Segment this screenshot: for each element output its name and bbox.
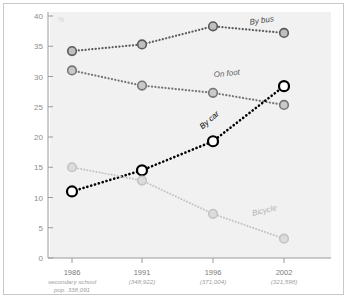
x-axis-tick-label: 1996 (205, 268, 222, 277)
y-axis-tick-label: 20 (34, 133, 43, 142)
data-point-by-car (137, 165, 147, 175)
x-axis-sublabel: (371,004) (200, 278, 227, 285)
percent-unit-label: % (58, 16, 64, 23)
y-axis-tick-label: 40 (34, 12, 43, 21)
data-point-by-bus (68, 47, 77, 56)
plot-area: 0510152025303540%1986secondary schoolpop… (0, 0, 347, 298)
data-point-on-foot (68, 66, 77, 75)
x-axis-sublabel: (321,598) (271, 278, 298, 285)
data-point-by-bus (280, 29, 289, 38)
y-axis-tick-label: 25 (34, 103, 43, 112)
y-axis-tick-label: 5 (39, 224, 44, 233)
data-point-on-foot (138, 81, 147, 90)
y-axis-tick-label: 35 (34, 42, 43, 51)
data-point-bicycle (138, 176, 147, 185)
data-point-on-foot (209, 89, 218, 98)
y-axis-tick-label: 30 (34, 73, 43, 82)
line-chart-canvas: 0510152025303540%1986secondary schoolpop… (0, 0, 347, 298)
data-point-by-bus (209, 22, 218, 31)
data-point-by-car (279, 81, 289, 91)
y-axis-tick-label: 0 (39, 254, 44, 263)
data-point-by-car (67, 186, 77, 196)
x-axis-sublabel: secondary school (48, 278, 97, 285)
x-axis-tick-label: 1986 (64, 268, 81, 277)
data-point-bicycle (209, 210, 218, 219)
x-axis-tick-label: 1991 (134, 268, 151, 277)
x-axis-sublabel: (348,922) (129, 278, 156, 285)
chart-figure: 0510152025303540%1986secondary schoolpop… (0, 0, 347, 298)
data-point-bicycle (280, 234, 289, 243)
data-point-bicycle (68, 163, 77, 172)
data-point-on-foot (280, 101, 289, 110)
x-axis-tick-label: 2002 (276, 268, 293, 277)
data-point-by-car (208, 136, 218, 146)
y-axis-tick-label: 10 (34, 194, 43, 203)
data-point-by-bus (138, 40, 147, 49)
y-axis-tick-label: 15 (34, 163, 43, 172)
x-axis-sublabel-line2: pop. 338,091 (53, 286, 90, 293)
